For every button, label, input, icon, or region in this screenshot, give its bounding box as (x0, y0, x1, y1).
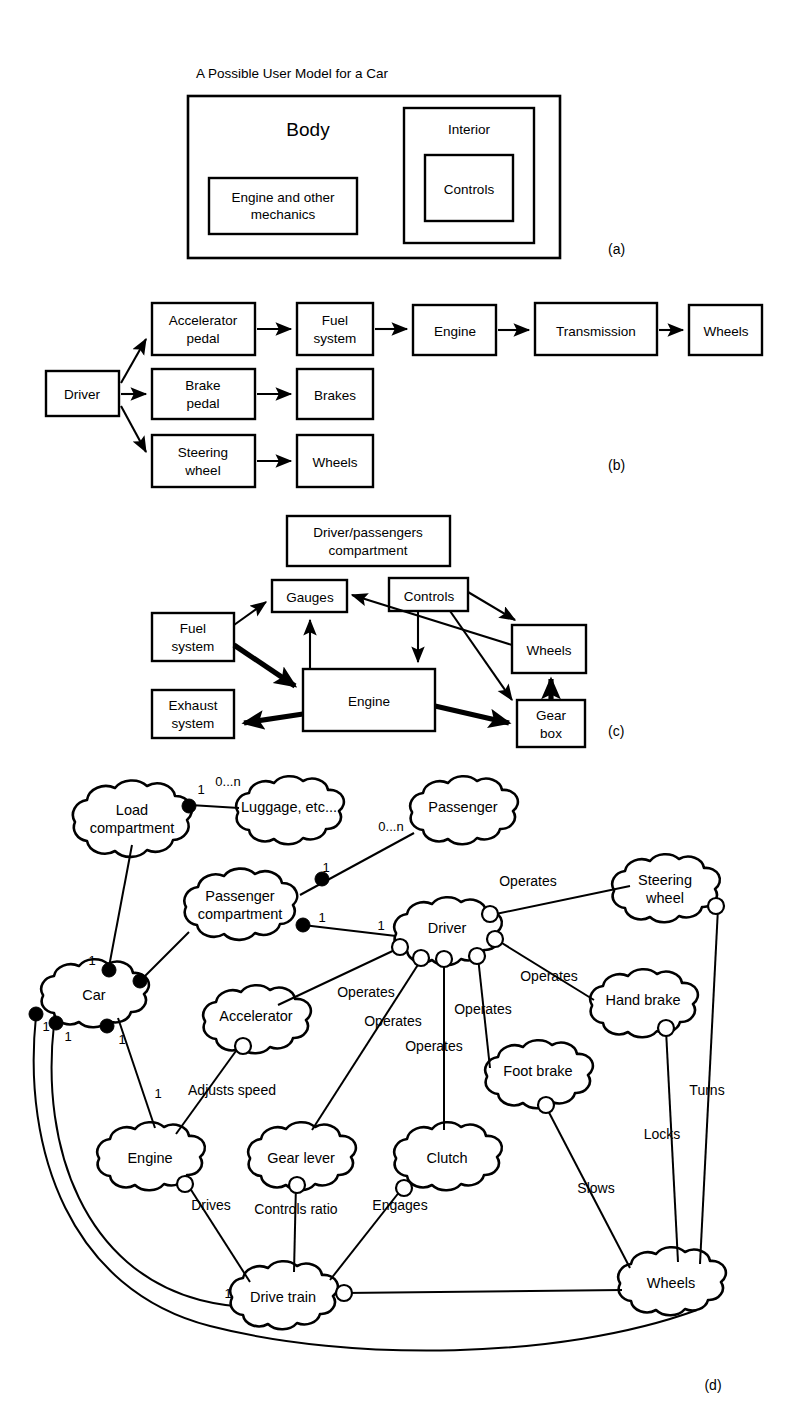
panel-d-mult-engine-top: 1 (154, 1086, 161, 1101)
panel-b-steering-wheel-label-line1: Steering (178, 445, 228, 460)
panel-d-circle-driver-foot-brake (469, 948, 485, 964)
panel-d-cloud-foot-brake: Foot brake (485, 1040, 593, 1108)
panel-d-circle-engine (177, 1176, 193, 1192)
panel-b-brake-pedal-label-line2: pedal (186, 396, 219, 411)
panel-b-steering-wheel-label-line2: wheel (184, 463, 220, 478)
panel-c-fuel-system-label-line1: Fuel (180, 621, 206, 636)
panel-b-fuel-system-label-line2: system (314, 331, 357, 346)
panel-b-wheels-right-label: Wheels (703, 324, 748, 339)
panel-d-mult-passenger-far: 0...n (378, 819, 403, 834)
panel-d-mult-drive-train-left: 1 (224, 1286, 231, 1301)
panel-c-wheels-label: Wheels (526, 643, 571, 658)
panel-c-compartment-label-line1: Driver/passengers (313, 525, 423, 540)
panel-c-fuel-system-label-line2: system (172, 639, 215, 654)
panel-d-mult-car-bottom: 1 (118, 1032, 125, 1047)
panel-d-edge-driver-steering-wheel (491, 886, 630, 915)
panel-b-fuel-system-label-line1: Fuel (322, 313, 348, 328)
car-user-model-figure: A Possible User Model for a Car Body Eng… (0, 0, 787, 1427)
panel-b-steering-wheel-box (152, 435, 255, 487)
panel-d-dot-car-left-b (49, 1016, 63, 1030)
panel-d-cloud-passenger: Passenger (410, 776, 518, 844)
panel-d-load-compartment-label-line2: compartment (90, 820, 175, 836)
panel-c-exhaust-system-label-line1: Exhaust (169, 698, 218, 713)
panel-d-circle-driver-accelerator (392, 939, 408, 955)
panel-c-edge-controls-gearbox (450, 611, 512, 700)
panel-d-cloud-drive-train: Drive train (230, 1261, 338, 1329)
panel-d-circle-gear-lever (289, 1177, 305, 1193)
panel-a-body-label: Body (286, 119, 330, 140)
panel-d-edge-drive-train-wheels (344, 1290, 622, 1293)
panel-d-label-operates-hand-brake: Operates (520, 968, 578, 984)
panel-d-cloud-wheels: Wheels (618, 1247, 726, 1315)
panel-d-label-drives: Drives (191, 1197, 231, 1213)
panel-d-drive-train-label: Drive train (250, 1289, 316, 1305)
panel-c-gear-box-label-line2: box (540, 726, 562, 741)
panel-d-circle-driver-hand-brake (487, 931, 503, 947)
panel-d-label-engages: Engages (372, 1197, 427, 1213)
panel-d-dot-car-bottom (100, 1019, 114, 1033)
panel-d-cloud-hand-brake: Hand brake (590, 969, 698, 1037)
panel-d-edge-car-passenger-compartment (139, 932, 189, 982)
panel-d-edge-gear-lever-drive-train (294, 1183, 296, 1272)
panel-d-hand-brake-label: Hand brake (606, 992, 681, 1008)
panel-d-mult-passenger-near: 1 (322, 860, 329, 875)
panel-b-accelerator-pedal-box (152, 303, 255, 355)
panel-d-dot-car-upper-right (133, 974, 147, 988)
panel-d-letter: (d) (704, 1377, 721, 1393)
panel-d-foot-brake-label: Foot brake (503, 1063, 572, 1079)
panel-d-circle-clutch (396, 1180, 412, 1196)
panel-d-cloud-accelerator: Accelerator (203, 985, 311, 1053)
panel-d-mult-car-left-b: 1 (64, 1029, 71, 1044)
panel-c-gauges-label: Gauges (286, 590, 334, 605)
panel-a-engine-label-line1: Engine and other (232, 190, 335, 205)
panel-d-edge-load-luggage (190, 805, 239, 808)
panel-d-wheels-label: Wheels (647, 1275, 695, 1291)
panel-d-car-label: Car (82, 987, 106, 1003)
panel-c-letter: (c) (608, 723, 624, 739)
panel-c-edge-engine-gearbox (435, 706, 509, 723)
panel-d-label-controls-ratio: Controls ratio (254, 1201, 337, 1217)
panel-d-mult-car-left-a: 1 (42, 1019, 49, 1034)
panel-d-circle-steering-wheel (708, 898, 724, 914)
panel-b-brake-pedal-label-line1: Brake (185, 378, 220, 393)
panel-d-gear-lever-label: Gear lever (267, 1150, 335, 1166)
panel-d-accelerator-label: Accelerator (219, 1008, 293, 1024)
panel-c-exhaust-system-label-line2: system (172, 716, 215, 731)
panel-b-driver-label: Driver (64, 387, 101, 402)
panel-c-edge-controls-wheels (468, 592, 515, 620)
panel-d-label-operates-accelerator: Operates (337, 984, 395, 1000)
panel-c-edge-fuel-gauges (234, 602, 266, 625)
panel-b-transmission-label: Transmission (556, 324, 636, 339)
panel-b-accelerator-pedal-label-line1: Accelerator (169, 313, 238, 328)
panel-d-circle-foot-brake (538, 1097, 554, 1113)
panel-d-label-operates-clutch: Operates (405, 1038, 463, 1054)
panel-d-load-compartment-label-line1: Load (116, 802, 148, 818)
panel-b-fuel-system-box (297, 303, 373, 355)
panel-a-letter: (a) (608, 241, 625, 257)
panel-a: A Possible User Model for a Car Body Eng… (188, 66, 625, 258)
panel-d-circle-hand-brake (658, 1020, 674, 1036)
panel-d-dot-car-left-a (29, 1007, 43, 1021)
panel-b-engine-label: Engine (434, 324, 476, 339)
panel-c-gear-box-label-line1: Gear (536, 708, 567, 723)
panel-d-mult-load-luggage-far: 0...n (215, 774, 240, 789)
panel-c-engine-label: Engine (348, 694, 390, 709)
panel-a-engine-box (209, 178, 357, 234)
panel-d-label-operates-steering: Operates (499, 873, 557, 889)
panel-d-mult-driver-side: 1 (377, 918, 384, 933)
panel-a-controls-label: Controls (444, 182, 495, 197)
figure-page: A Possible User Model for a Car Body Eng… (0, 0, 787, 1427)
panel-d-cloud-steering-wheel: Steering wheel (612, 854, 720, 922)
panel-d-label-operates-foot-brake: Operates (454, 1001, 512, 1017)
panel-b-brake-pedal-box (152, 369, 255, 419)
panel-d-circle-drive-train (336, 1285, 352, 1301)
panel-c-edge-fuel-engine (234, 645, 295, 686)
panel-b: Driver Accelerator pedal Brake pedal Ste… (46, 303, 762, 487)
panel-d-mult-load-luggage-near: 1 (197, 782, 204, 797)
panel-d-edge-car-load-compartment (108, 845, 132, 972)
panel-b-letter: (b) (608, 457, 625, 473)
panel-d-cloud-luggage: Luggage, etc... (236, 776, 344, 844)
panel-d-clutch-label: Clutch (426, 1150, 467, 1166)
panel-b-brakes-label: Brakes (314, 388, 356, 403)
panel-d-label-operates-gear-lever: Operates (364, 1013, 422, 1029)
